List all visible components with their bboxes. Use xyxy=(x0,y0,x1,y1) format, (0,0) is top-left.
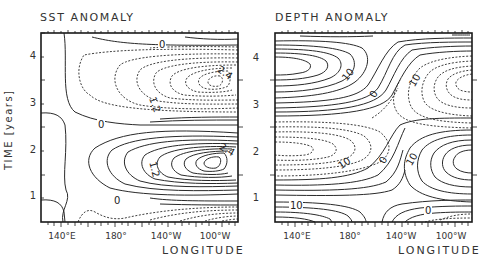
contour-plots: 0 0 0 2.4 1.2 1.2 2.4 xyxy=(0,0,490,264)
sst-label-pos-max: 2.4 xyxy=(218,141,237,158)
sst-label-zero-bot: 0 xyxy=(114,195,120,206)
depth-contours: 10 0 10 10 0 10 10 0 xyxy=(275,35,472,222)
sst-label-zero-top: 0 xyxy=(159,39,165,50)
sst-axis-ticks xyxy=(41,30,243,227)
depth-label-c: 10 xyxy=(407,72,423,89)
depth-label-e: 0 xyxy=(377,154,390,165)
sst-label-neg-max: 2.4 xyxy=(215,64,234,82)
depth-label-h: 0 xyxy=(425,205,431,216)
depth-label-d: 10 xyxy=(336,155,353,171)
figure: SST ANOMALY DEPTH ANOMALY TIME [years] 4… xyxy=(0,0,490,264)
depth-label-g: 10 xyxy=(290,200,303,211)
sst-contours: 0 0 0 2.4 1.2 1.2 2.4 xyxy=(41,33,238,222)
sst-label-zero-mid: 0 xyxy=(98,119,104,130)
sst-label-neg-mid: 1.2 xyxy=(147,95,163,114)
sst-plot-frame xyxy=(41,33,238,222)
